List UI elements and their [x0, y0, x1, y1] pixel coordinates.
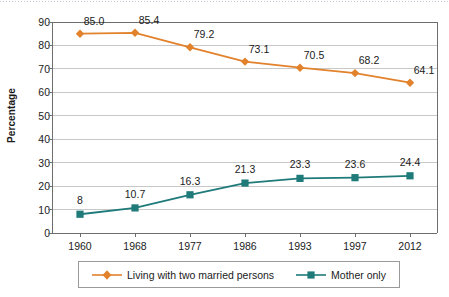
x-axis-tick-2012: 2012 — [385, 240, 435, 252]
axis-lines — [52, 22, 437, 233]
data-label: 16.3 — [180, 175, 200, 187]
x-axis-tick-1993: 1993 — [275, 240, 325, 252]
x-axis-tick-1960: 1960 — [55, 240, 105, 252]
data-label: 85.4 — [139, 14, 159, 26]
legend-marker-diamond-icon — [92, 269, 122, 281]
x-axis-tick-1997: 1997 — [330, 240, 380, 252]
x-axis-tick-1968: 1968 — [110, 240, 160, 252]
data-label: 73.1 — [249, 43, 269, 55]
chart-plot-area — [0, 0, 449, 297]
data-label: 23.6 — [345, 158, 365, 170]
legend-label-mother-only: Mother only — [331, 269, 386, 281]
data-label: 68.2 — [359, 54, 379, 66]
legend-item-mother-only[interactable]: Mother only — [296, 269, 386, 281]
data-label: 85.0 — [84, 15, 104, 27]
y-axis-ticks — [48, 22, 410, 237]
chart-legend: Living with two married persons Mother o… — [78, 261, 400, 288]
chart-figure: Percentage 0102030405060708090 196019681… — [0, 0, 449, 297]
x-axis-tick-1977: 1977 — [165, 240, 215, 252]
legend-item-married[interactable]: Living with two married persons — [92, 269, 274, 281]
gridlines — [52, 22, 437, 233]
data-label: 70.5 — [304, 49, 324, 61]
x-axis-tick-1986: 1986 — [220, 240, 270, 252]
data-label: 64.1 — [414, 64, 434, 76]
data-label: 23.3 — [290, 158, 310, 170]
legend-marker-square-icon — [296, 269, 326, 281]
data-label: 79.2 — [194, 28, 214, 40]
data-label: 21.3 — [235, 163, 255, 175]
data-label: 24.4 — [400, 156, 420, 168]
legend-label-married: Living with two married persons — [127, 269, 274, 281]
data-label: 8 — [77, 194, 83, 206]
data-label: 10.7 — [125, 188, 145, 200]
